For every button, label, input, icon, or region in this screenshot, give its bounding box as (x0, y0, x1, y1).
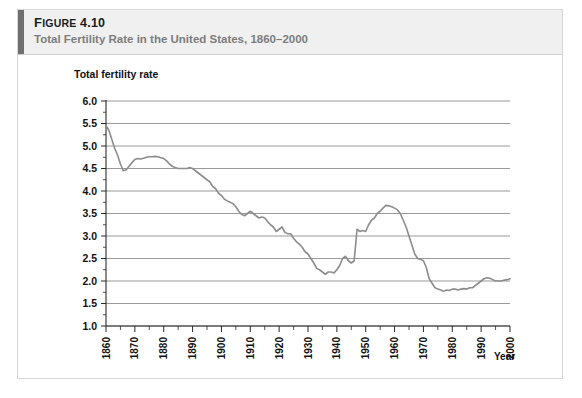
x-tick-label: 1900 (216, 337, 227, 360)
x-tick-label: 2000 (505, 337, 516, 360)
figure-label-prefix-first: F (34, 15, 42, 30)
y-tick-label: 5.5 (82, 117, 97, 129)
x-tick-label: 1870 (129, 337, 140, 360)
figure-label-prefix-rest: IGURE (42, 17, 76, 29)
figure-card: FIGURE 4.10 Total Fertility Rate in the … (17, 9, 563, 379)
x-tick-label: 1990 (476, 337, 487, 360)
axes-group (106, 100, 510, 326)
y-tick-label: 1.5 (82, 297, 97, 309)
x-tick-labels-group: 1860187018801890190019101920193019401950… (101, 337, 516, 360)
y-tick-label: 1.0 (82, 320, 97, 332)
x-tick-marks-group (106, 326, 510, 332)
x-tick-label: 1960 (389, 337, 400, 360)
x-tick-label: 1860 (101, 337, 112, 360)
figure-header: FIGURE 4.10 Total Fertility Rate in the … (18, 10, 562, 55)
plot-body: Total fertility rate Year 6.05.55.04.54.… (18, 55, 562, 378)
x-tick-label: 1890 (187, 337, 198, 360)
y-tick-label: 4.0 (82, 185, 97, 197)
y-tick-label: 3.5 (82, 207, 97, 219)
figure-label-number: 4.10 (80, 16, 105, 30)
x-tick-label: 1980 (447, 337, 458, 360)
y-tick-label: 4.5 (82, 162, 97, 174)
x-tick-label: 1930 (303, 337, 314, 360)
x-tick-label: 1970 (418, 337, 429, 360)
y-tick-label: 2.5 (82, 252, 97, 264)
y-tick-label: 2.0 (82, 275, 97, 287)
y-tick-labels-group: 6.05.55.04.54.03.53.02.52.01.51.0 (82, 95, 97, 332)
gridlines-group (101, 101, 510, 326)
x-tick-label: 1940 (331, 337, 342, 360)
x-tick-label: 1920 (274, 337, 285, 360)
figure-subtitle: Total Fertility Rate in the United State… (34, 33, 308, 45)
header-accent-bar (18, 10, 24, 54)
x-tick-label: 1950 (360, 337, 371, 360)
y-tick-label: 6.0 (82, 95, 97, 107)
y-tick-label: 5.0 (82, 140, 97, 152)
figure-label: FIGURE 4.10 (34, 15, 105, 30)
fertility-rate-line-chart: 6.05.55.04.54.03.53.02.52.01.51.0 186018… (18, 55, 564, 378)
y-tick-label: 3.0 (82, 230, 97, 242)
fertility-rate-series-line (106, 126, 510, 292)
x-tick-label: 1910 (245, 337, 256, 360)
x-tick-label: 1880 (158, 337, 169, 360)
